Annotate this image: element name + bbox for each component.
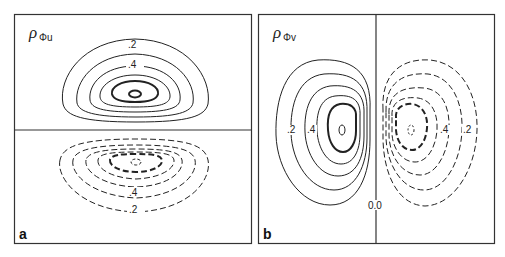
panel-b-title-symbol: ρ [272,23,281,42]
contour-label: .2 [128,39,137,50]
panel-b-label: b [263,226,272,242]
contour-label: .4 [128,59,137,70]
panel-a-title-subscript: Φu [39,32,53,43]
contour-label: .4 [440,124,449,135]
panel-b-title-subscript: Φv [283,32,296,43]
figure: .2 .4 .4 .2 ρ Φu a [0,0,505,257]
contour-label: .2 [463,124,472,135]
panel-a-title-symbol: ρ [28,23,37,42]
contour-label: .2 [287,124,296,135]
contour-label: .2 [129,204,138,215]
contour-label: .4 [129,187,138,198]
panel-b: .2 .4 .4 .2 0.0 ρ Φv b [259,15,495,244]
panel-a-label: a [19,226,27,242]
panel-a-positive-contours [62,39,208,122]
contour-label: .4 [307,124,316,135]
panel-a: .2 .4 .4 .2 ρ Φu a [15,15,252,244]
panel-a-negative-contours [60,139,209,212]
zero-contour-label: 0.0 [368,200,382,211]
